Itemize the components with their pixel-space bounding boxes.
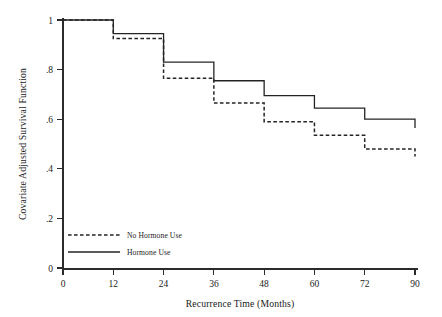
y-tick-label: .6 <box>46 115 53 125</box>
x-axis-tick-labels: 0 12 24 36 48 60 72 90 <box>61 279 420 289</box>
x-tick-label: 90 <box>410 279 420 289</box>
x-tick-label: 60 <box>310 279 320 289</box>
y-tick-label: .8 <box>46 65 53 75</box>
x-tick-label: 72 <box>360 279 370 289</box>
y-tick-label: 1 <box>48 16 53 26</box>
x-axis-title: Recurrence Time (Months) <box>186 298 295 310</box>
legend: No Hormone Use Hormone Use <box>68 231 182 257</box>
y-axis-ticks <box>57 20 63 268</box>
x-tick-label: 48 <box>259 279 269 289</box>
y-tick-label: 0 <box>48 264 53 274</box>
y-tick-label: .4 <box>46 164 53 174</box>
x-tick-label: 0 <box>61 279 66 289</box>
x-tick-label: 36 <box>209 279 219 289</box>
y-axis-title: Covariate Adjusted Survival Function <box>17 68 28 220</box>
y-axis-tick-labels: 1 .8 .6 .4 .2 0 <box>46 16 53 274</box>
plot-canvas: 1 .8 .6 .4 .2 0 0 12 24 36 48 60 72 90 <box>0 0 442 317</box>
legend-label-no-hormone-use: No Hormone Use <box>127 231 182 240</box>
x-tick-label: 24 <box>159 279 169 289</box>
series-line-hormone-use <box>63 20 415 128</box>
series-line-no-hormone-use <box>63 20 415 156</box>
survival-curve-figure: 1 .8 .6 .4 .2 0 0 12 24 36 48 60 72 90 <box>0 0 442 317</box>
legend-label-hormone-use: Hormone Use <box>127 248 171 257</box>
y-tick-label: .2 <box>46 214 53 224</box>
x-axis-ticks <box>63 269 415 275</box>
x-tick-label: 12 <box>109 279 119 289</box>
